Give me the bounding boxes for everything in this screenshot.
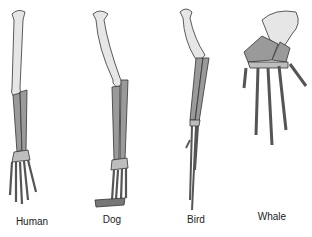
label-whale: Whale: [242, 211, 302, 222]
label-dog: Dog: [82, 214, 142, 225]
whale-limb: [244, 11, 306, 145]
human-limb: [10, 10, 36, 204]
label-human: Human: [2, 216, 62, 227]
dog-limb: [93, 11, 128, 207]
limb-diagram: [0, 0, 312, 237]
bird-limb: [180, 9, 209, 210]
label-bird: Bird: [166, 214, 226, 225]
